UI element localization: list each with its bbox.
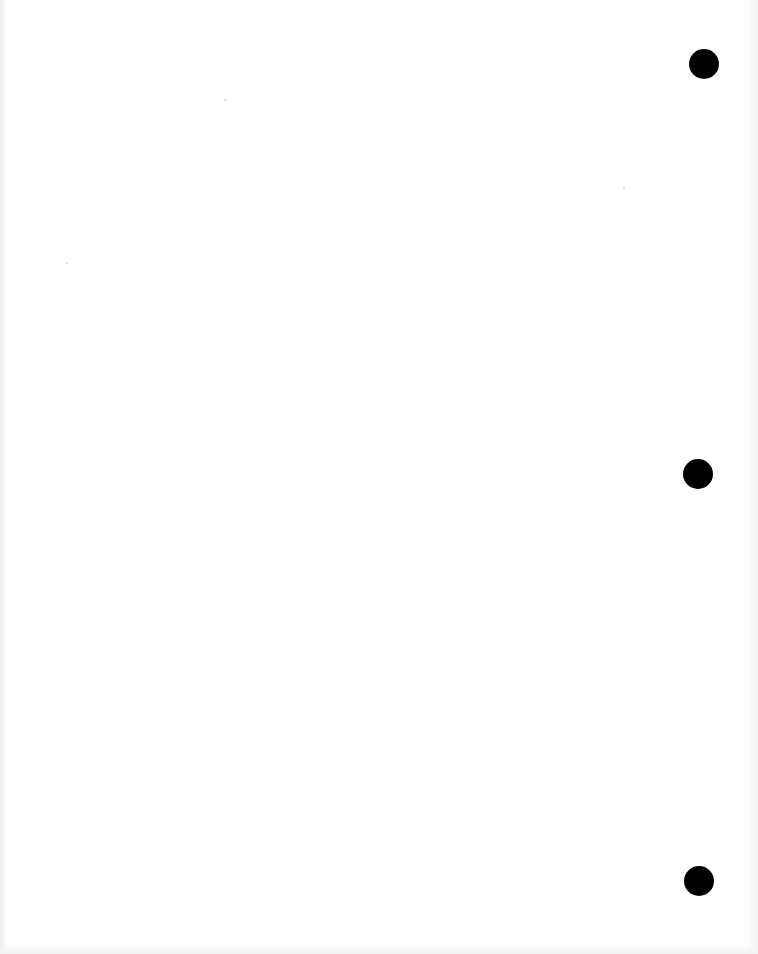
scan-speck: [623, 187, 625, 189]
scan-speck: [66, 262, 68, 264]
page-right-shadow: [748, 0, 758, 954]
page-left-shadow: [0, 0, 8, 954]
punch-hole-bottom: [684, 866, 714, 896]
scan-speck: [224, 99, 226, 101]
punch-hole-top: [689, 49, 719, 79]
scanned-page: [0, 0, 758, 954]
page-bottom-shadow: [0, 944, 758, 954]
punch-hole-middle: [683, 459, 713, 489]
